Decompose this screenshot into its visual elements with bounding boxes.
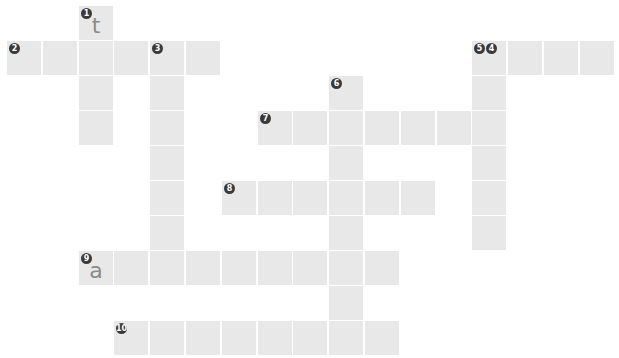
crossword-cell[interactable]: 10 [114, 321, 148, 355]
crossword-cell[interactable] [79, 41, 113, 75]
clue-number-badge: 5 [474, 43, 485, 54]
crossword-cell[interactable] [580, 41, 614, 75]
crossword-cell[interactable] [401, 181, 435, 215]
crossword-cell[interactable] [186, 251, 220, 285]
clue-number-badge: 8 [224, 183, 235, 194]
crossword-cell[interactable] [114, 41, 148, 75]
crossword-cell[interactable] [472, 76, 506, 110]
crossword-cell[interactable]: 7 [258, 111, 292, 145]
crossword-cell[interactable] [329, 111, 363, 145]
crossword-cell[interactable]: 9a [79, 251, 113, 285]
crossword-cell[interactable] [150, 251, 184, 285]
crossword-cell[interactable] [437, 111, 471, 145]
crossword-cell[interactable] [43, 41, 77, 75]
crossword-cell[interactable] [293, 181, 327, 215]
crossword-cell[interactable] [293, 111, 327, 145]
crossword-cell[interactable] [293, 251, 327, 285]
crossword-cell[interactable] [365, 321, 399, 355]
crossword-cell[interactable] [150, 146, 184, 180]
crossword-cell[interactable] [472, 181, 506, 215]
crossword-cell[interactable] [329, 286, 363, 320]
crossword-cell[interactable] [222, 251, 256, 285]
crossword-cell[interactable]: 1t [79, 6, 113, 40]
crossword-cell[interactable]: 8 [222, 181, 256, 215]
clue-number-badge: 4 [486, 43, 497, 54]
crossword-cell[interactable]: 6 [329, 76, 363, 110]
crossword-cell[interactable] [79, 76, 113, 110]
crossword-cell[interactable] [150, 321, 184, 355]
crossword-cell[interactable] [114, 251, 148, 285]
crossword-cell[interactable] [329, 146, 363, 180]
crossword-cell[interactable] [258, 321, 292, 355]
crossword-cell[interactable] [222, 321, 256, 355]
crossword-cell[interactable] [150, 111, 184, 145]
crossword-cell[interactable] [365, 111, 399, 145]
clue-number-badge: 6 [331, 78, 342, 89]
crossword-cell[interactable] [329, 321, 363, 355]
crossword-cell[interactable] [365, 251, 399, 285]
crossword-cell[interactable] [365, 181, 399, 215]
crossword-cell[interactable] [329, 251, 363, 285]
crossword-cell[interactable] [293, 321, 327, 355]
crossword-grid: 1t23546789a10 [0, 0, 619, 358]
cell-letter: a [79, 259, 113, 283]
crossword-cell[interactable] [258, 181, 292, 215]
crossword-cell[interactable] [329, 216, 363, 250]
crossword-cell[interactable] [472, 216, 506, 250]
crossword-cell[interactable] [150, 76, 184, 110]
clue-number-badge: 10 [116, 323, 127, 334]
crossword-cell[interactable] [79, 111, 113, 145]
crossword-cell[interactable] [258, 251, 292, 285]
crossword-cell[interactable]: 3 [150, 41, 184, 75]
clue-number-badge: 2 [9, 43, 20, 54]
cell-letter: t [79, 14, 113, 38]
crossword-cell[interactable] [150, 216, 184, 250]
crossword-cell[interactable]: 2 [7, 41, 41, 75]
crossword-cell[interactable] [472, 111, 506, 145]
clue-number-badge: 7 [260, 113, 271, 124]
clue-number-badge: 3 [152, 43, 163, 54]
crossword-cell[interactable]: 54 [472, 41, 506, 75]
crossword-cell[interactable] [150, 181, 184, 215]
crossword-cell[interactable] [401, 111, 435, 145]
crossword-cell[interactable] [544, 41, 578, 75]
crossword-cell[interactable] [508, 41, 542, 75]
crossword-cell[interactable] [472, 146, 506, 180]
crossword-cell[interactable] [329, 181, 363, 215]
crossword-cell[interactable] [186, 321, 220, 355]
crossword-cell[interactable] [186, 41, 220, 75]
